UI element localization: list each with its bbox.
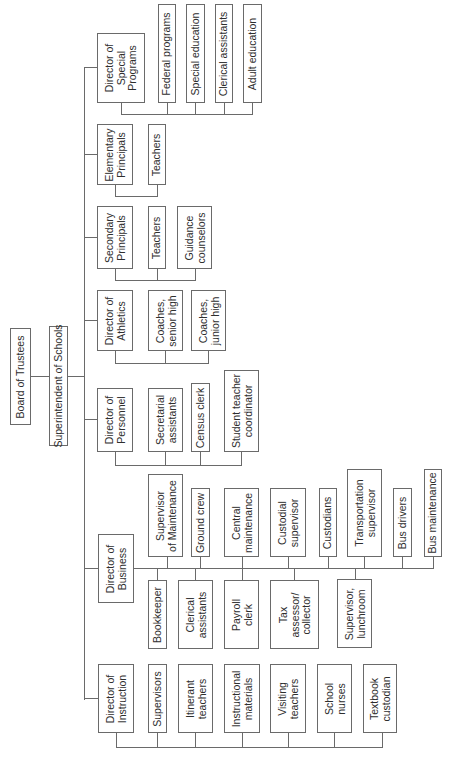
connector-line bbox=[402, 557, 403, 569]
connector-line bbox=[224, 103, 225, 115]
box-label: Tax assessor/ collector bbox=[277, 592, 312, 637]
connector-line bbox=[115, 280, 196, 281]
box-label: Supervisors bbox=[152, 671, 164, 726]
connector-line bbox=[288, 557, 289, 569]
box-label: Itinerant teachers bbox=[184, 678, 207, 718]
position-bus-drivers: Bus drivers bbox=[393, 488, 412, 557]
connector-line bbox=[84, 419, 98, 420]
position-central-maintenance: Central maintenance bbox=[224, 488, 259, 557]
org-chart: Board of TrusteesSuperintendent of Schoo… bbox=[0, 0, 452, 777]
node-board-of-trustees: Board of Trustees bbox=[10, 328, 31, 425]
box-label: Federal programs bbox=[161, 12, 173, 95]
director-elementary-principals: Elementary Principals bbox=[97, 124, 133, 185]
position-census-clerk: Census clerk bbox=[191, 383, 210, 452]
position-coaches-senior-high: Coaches, senior high bbox=[148, 290, 183, 351]
position-secretarial-assistants: Secretarial assistants bbox=[148, 388, 183, 452]
connector-line bbox=[382, 733, 383, 748]
connector-line bbox=[364, 557, 365, 569]
box-label: Bus drivers bbox=[397, 496, 409, 549]
box-label: Secretarial assistants bbox=[154, 395, 177, 445]
position-teachers: Teachers bbox=[148, 124, 166, 185]
position-special-education: Special education bbox=[186, 4, 205, 103]
connector-line bbox=[165, 452, 166, 466]
box-label: Visiting teachers bbox=[277, 678, 300, 718]
position-coaches-junior-high: Coaches, junior high bbox=[191, 290, 226, 351]
position-guidance-counselors: Guidance counselors bbox=[177, 206, 212, 269]
box-label: Coaches, senior high bbox=[154, 295, 177, 346]
box-label: Teachers bbox=[151, 216, 163, 259]
connector-line bbox=[328, 557, 329, 569]
box-label: Transportation supervisor bbox=[353, 479, 376, 546]
connector-line bbox=[84, 568, 99, 569]
node-superintendent-of-schools: Superintendent of Schools bbox=[49, 326, 68, 446]
position-teachers: Teachers bbox=[148, 206, 166, 269]
connector-line bbox=[200, 557, 201, 569]
box-label: Textbook custodian bbox=[369, 676, 392, 721]
position-transportation-supervisor: Transportation supervisor bbox=[347, 469, 382, 557]
connector-line bbox=[165, 351, 166, 364]
connector-line bbox=[195, 269, 196, 281]
connector-line bbox=[157, 185, 158, 197]
connector-line bbox=[84, 67, 85, 700]
director-director-of-personnel: Director of Personnel bbox=[97, 388, 133, 452]
position-student-teacher-coordinator: Student teacher coordinator bbox=[224, 370, 259, 452]
box-label: Director of Personnel bbox=[104, 396, 127, 444]
position-federal-programs: Federal programs bbox=[158, 4, 176, 103]
box-label: Board of Trustees bbox=[15, 335, 27, 418]
connector-line bbox=[167, 557, 168, 569]
box-label: Director of Athletics bbox=[104, 296, 127, 344]
position-custodians: Custodians bbox=[319, 488, 337, 557]
connector-line bbox=[157, 733, 158, 748]
director-director-of-business: Director of Business bbox=[98, 534, 134, 603]
position-bookkeeper: Bookkeeper bbox=[148, 580, 167, 649]
connector-line bbox=[334, 733, 335, 748]
position-adult-education: Adult education bbox=[243, 4, 262, 103]
connector-line bbox=[288, 733, 289, 748]
connector-line bbox=[433, 557, 434, 569]
box-label: Clerical assistants bbox=[184, 591, 207, 638]
connector-line bbox=[195, 733, 196, 748]
box-label: Custodians bbox=[322, 496, 334, 549]
position-textbook-custodian: Textbook custodian bbox=[363, 664, 397, 733]
box-label: Guidance counselors bbox=[183, 212, 206, 263]
position-supervisor-lunchroom: Supervisor, lunchroom bbox=[337, 579, 372, 648]
box-label: Director of Instruction bbox=[105, 674, 128, 722]
director-director-of-athletics: Director of Athletics bbox=[97, 290, 133, 351]
connector-line bbox=[68, 376, 85, 377]
box-label: Special education bbox=[190, 12, 202, 95]
connector-line bbox=[115, 465, 242, 466]
connector-line bbox=[84, 237, 98, 238]
box-label: Ground crew bbox=[195, 492, 207, 552]
connector-line bbox=[200, 452, 201, 466]
box-label: Supervisor, lunchroom bbox=[343, 587, 366, 640]
box-label: Student teacher coordinator bbox=[230, 374, 253, 448]
position-tax-assessor-collector: Tax assessor/ collector bbox=[270, 580, 319, 649]
connector-line bbox=[208, 351, 209, 364]
connector-line bbox=[115, 196, 158, 197]
connector-line bbox=[116, 733, 117, 748]
box-label: Bus maintenance bbox=[427, 472, 439, 553]
box-label: Custodial supervisor bbox=[277, 498, 300, 546]
connector-line bbox=[241, 452, 242, 466]
position-clerical-assistants: Clerical assistants bbox=[178, 580, 213, 649]
connector-line bbox=[84, 698, 99, 699]
box-label: Teachers bbox=[151, 133, 163, 176]
connector-line bbox=[195, 103, 196, 115]
connector-line bbox=[84, 320, 98, 321]
box-label: Coaches, junior high bbox=[197, 296, 220, 344]
box-label: Bookkeeper bbox=[152, 586, 164, 642]
director-secondary-principals: Secondary Principals bbox=[97, 206, 133, 269]
box-label: Instructional materials bbox=[231, 670, 254, 727]
director-director-of-instruction: Director of Instruction bbox=[98, 664, 134, 733]
position-ground-crew: Ground crew bbox=[191, 488, 210, 557]
box-label: School nurses bbox=[323, 682, 346, 714]
position-supervisors: Supervisors bbox=[148, 664, 167, 733]
connector-line bbox=[115, 452, 116, 466]
box-label: Clerical assistants bbox=[218, 11, 230, 96]
position-itinerant-teachers: Itinerant teachers bbox=[178, 664, 213, 733]
position-visiting-teachers: Visiting teachers bbox=[270, 664, 306, 733]
box-label: Supervisor of Maintenance bbox=[154, 480, 177, 552]
connector-line bbox=[115, 363, 209, 364]
connector-line bbox=[84, 67, 98, 68]
connector-line bbox=[84, 154, 98, 155]
